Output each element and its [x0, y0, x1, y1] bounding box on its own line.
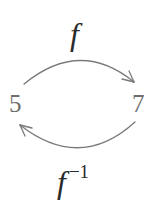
function-inverse-diagram: 5 7 f f−1: [0, 0, 159, 206]
node-five: 5: [9, 91, 22, 116]
function-label-f: f: [70, 18, 79, 50]
inverse-arrow: [20, 122, 135, 148]
function-label-f-inverse: f−1: [57, 166, 89, 198]
node-seven: 7: [132, 91, 145, 116]
forward-arrow: [24, 60, 134, 84]
function-name: f: [57, 164, 66, 200]
inverse-superscript: −1: [69, 161, 89, 182]
function-name: f: [70, 16, 79, 52]
